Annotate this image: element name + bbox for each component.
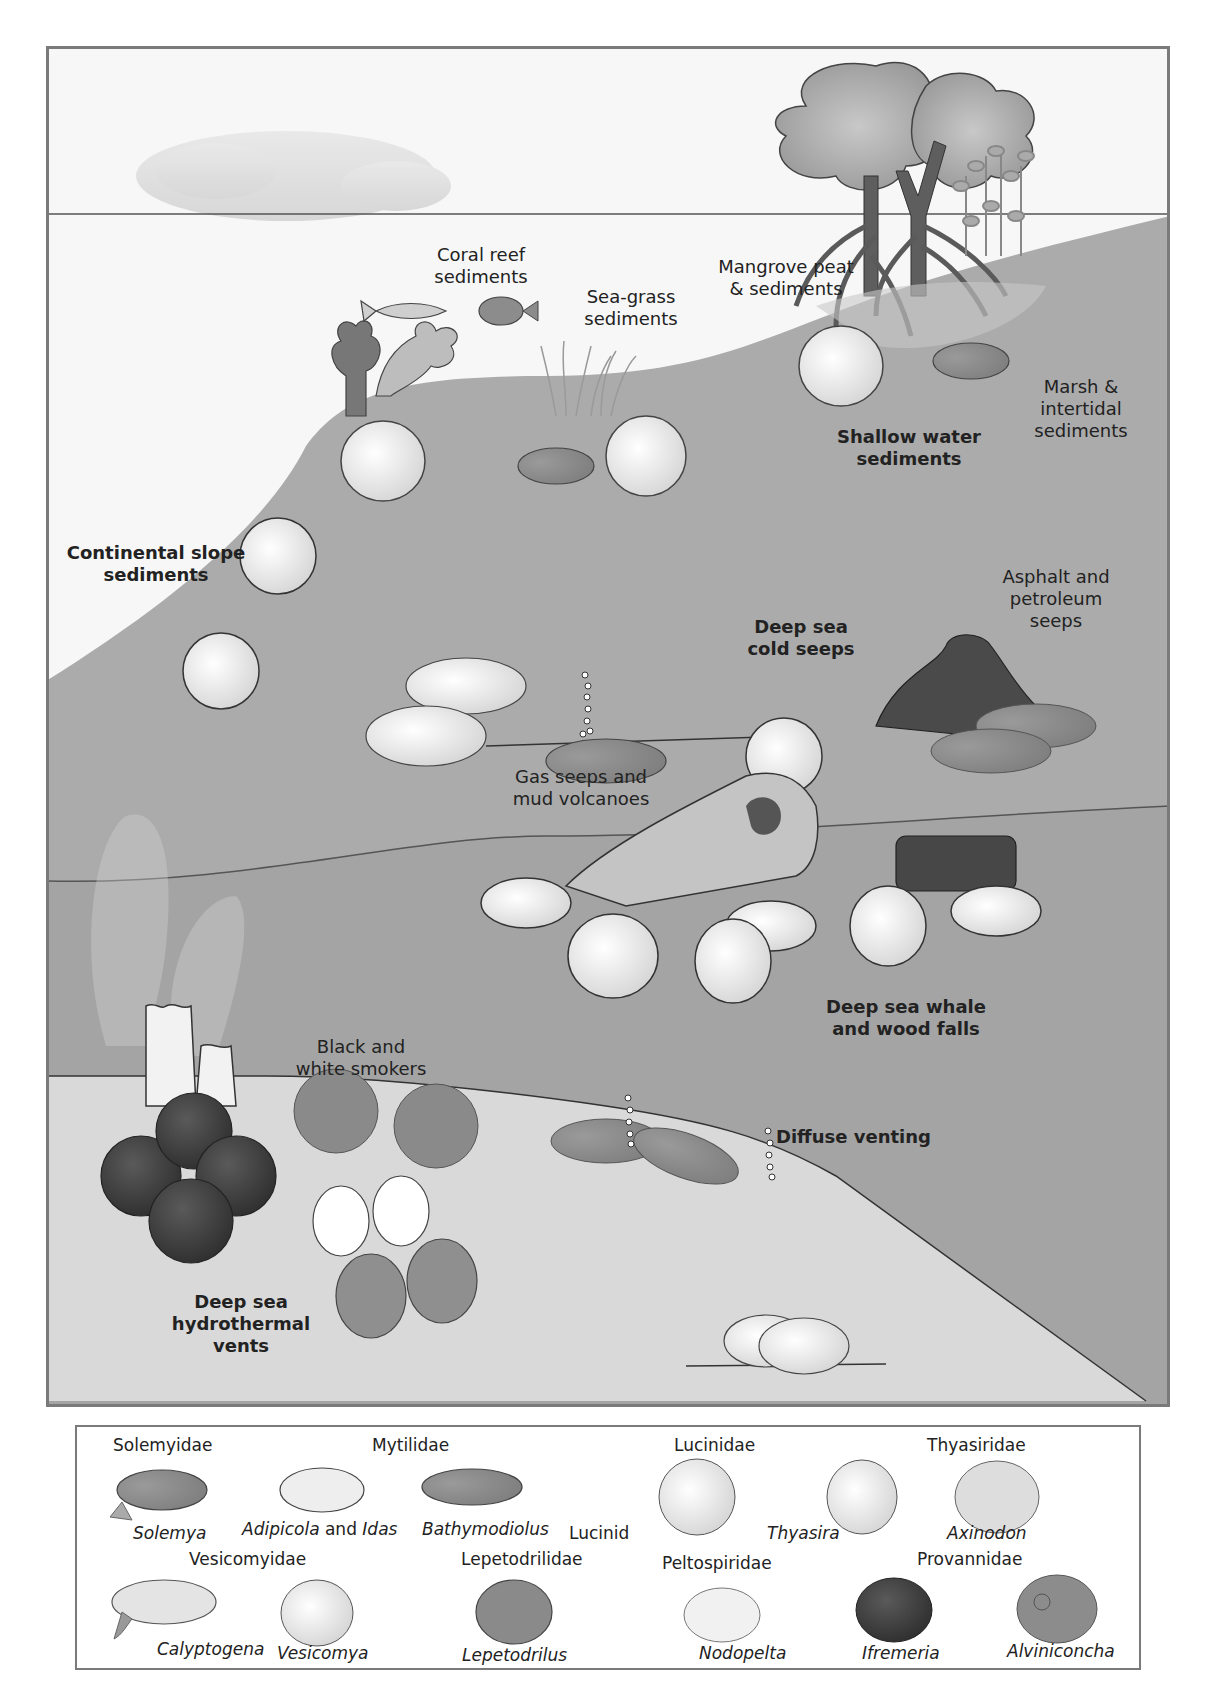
label-shallow-water: Shallow water sediments <box>814 426 1004 470</box>
genus-vesicomya: Vesicomya <box>277 1643 368 1663</box>
lucinid-shell-icon <box>799 326 883 406</box>
label-sea-grass: Sea-grass sediments <box>566 286 696 330</box>
adipicola-shell-icon <box>272 1462 372 1522</box>
solemya-shell-icon <box>933 343 1009 379</box>
label-diffuse-venting: Diffuse venting <box>776 1126 956 1148</box>
genus-calyptogena: Calyptogena <box>157 1639 264 1659</box>
label-continental-slope: Continental slope sediments <box>51 542 261 586</box>
species-legend: Solemyidae Mytilidae Lucinidae Thyasirid… <box>75 1425 1141 1670</box>
label-whale-wood: Deep sea whale and wood falls <box>806 996 1006 1040</box>
genus-axinodon: Axinodon <box>947 1523 1027 1543</box>
family-solemyidae: Solemyidae <box>113 1435 212 1455</box>
label-smokers: Black and white smokers <box>266 1036 456 1080</box>
genus-solemya: Solemya <box>133 1523 206 1543</box>
thyasira-shell-icon <box>183 633 259 709</box>
family-lepetodrilidae: Lepetodrilidae <box>461 1549 583 1569</box>
label-asphalt: Asphalt and petroleum seeps <box>986 566 1126 632</box>
habitat-scene: Coral reef sediments Sea-grass sediments… <box>46 46 1170 1407</box>
genus-bathymodiolus: Bathymodiolus <box>422 1519 549 1539</box>
lepetodrilus-shell-icon <box>469 1577 559 1647</box>
family-lucinidae: Lucinidae <box>674 1435 755 1455</box>
solemya-shell-icon <box>518 448 594 484</box>
bathymodiolus-shell-icon <box>417 1462 532 1522</box>
vesicomya-shell-icon <box>277 1575 357 1650</box>
label-marsh: Marsh & intertidal sediments <box>1021 376 1141 442</box>
calyptogena-shell-icon <box>102 1577 222 1642</box>
alviniconcha-snail-icon <box>1012 1572 1102 1647</box>
genus-alviniconcha: Alviniconcha <box>1007 1641 1115 1661</box>
habitat-illustration <box>46 46 1170 1407</box>
genus-ifremeria: Ifremeria <box>862 1643 940 1663</box>
genus-thyasira: Thyasira <box>767 1523 840 1543</box>
genus-lepetodrilus: Lepetodrilus <box>462 1645 567 1665</box>
family-provannidae: Provannidae <box>917 1549 1022 1569</box>
label-gas-seeps: Gas seeps and mud volcanoes <box>486 766 676 810</box>
lucinid-shell-icon <box>341 421 425 501</box>
family-peltospiridae: Peltospiridae <box>662 1553 772 1573</box>
label-cold-seeps: Deep sea cold seeps <box>726 616 876 660</box>
family-mytilidae: Mytilidae <box>372 1435 449 1455</box>
label-coral-reef: Coral reef sediments <box>406 244 556 288</box>
nodopelta-shell-icon <box>677 1585 767 1645</box>
ifremeria-snail-icon <box>852 1575 937 1645</box>
lucinid-shell-icon <box>652 1457 742 1537</box>
label-hydrothermal: Deep sea hydrothermal vents <box>156 1291 326 1357</box>
wood-log-icon <box>896 836 1016 891</box>
genus-adipicola-and-idas: Adipicola and Idas <box>242 1519 397 1539</box>
label-mangrove: Mangrove peat & sediments <box>701 256 871 300</box>
genus-nodopelta: Nodopelta <box>699 1643 786 1663</box>
family-vesicomyidae: Vesicomyidae <box>189 1549 306 1569</box>
solemya-shell-icon <box>102 1462 212 1532</box>
lucinid-shell-icon <box>606 416 686 496</box>
family-thyasiridae: Thyasiridae <box>927 1435 1026 1455</box>
genus-lucinid: Lucinid <box>569 1523 629 1543</box>
